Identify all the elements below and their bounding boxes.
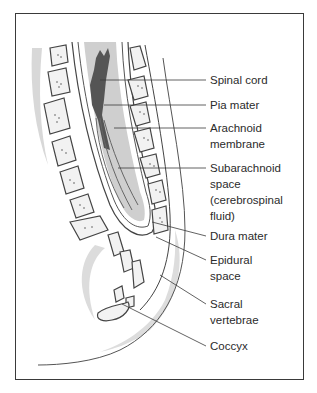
label-arachnoid-membrane: Arachnoid membrane [210,120,265,152]
label-subarachnoid-space: Subarachnoid space (cerebrospinal fluid) [210,160,283,224]
pelvic-shade [82,245,105,320]
label-dura-mater: Dura mater [210,228,268,244]
label-coccyx: Coccyx [210,338,248,354]
label-epidural-space: Epidural space [210,252,252,284]
sacrum-fragments [108,232,144,308]
label-pia-mater: Pia mater [210,97,259,113]
label-sacral-vertebrae: Sacral vertebrae [210,296,259,328]
label-spinal-cord: Spinal cord [210,72,268,88]
